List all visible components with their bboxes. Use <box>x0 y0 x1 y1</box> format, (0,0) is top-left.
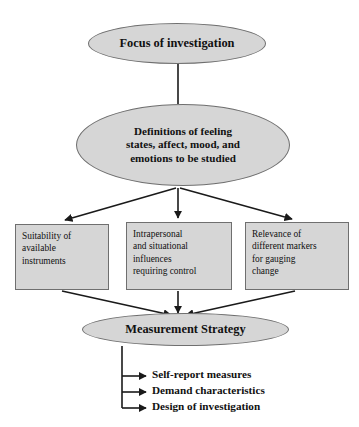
node-relevance-line-4: change <box>252 266 279 276</box>
node-relevance-of-different-markers[interactable]: Relevance of different markers for gaugi… <box>245 222 349 290</box>
node-relevance-line-1: Relevance of <box>252 229 301 239</box>
flowchart-diagram: Focus of investigation Definitions of fe… <box>0 0 359 427</box>
connector-suitability-to-strategy <box>62 291 171 315</box>
node-suitability-line-2: available <box>22 243 56 253</box>
node-focus-of-investigation[interactable]: Focus of investigation <box>88 23 266 64</box>
outcome-label: Self-report measures <box>152 369 251 380</box>
node-intrapersonal-line-4: requiring control <box>133 266 196 276</box>
node-definitions-line-2: states, affect, mood, and <box>126 138 240 150</box>
node-definitions[interactable]: Definitions of feeling states, affect, m… <box>76 104 290 186</box>
node-intrapersonal-and-situational-influences[interactable]: Intrapersonal and situational influences… <box>126 222 232 290</box>
connector-lines-layer <box>0 0 359 427</box>
connector-definitions-to-relevance <box>180 188 292 219</box>
node-definitions-line-3: emotions to be studied <box>130 152 236 164</box>
node-strategy-label: Measurement Strategy <box>125 322 246 337</box>
connector-relevance-to-strategy <box>186 291 295 315</box>
node-intrapersonal-line-1: Intrapersonal <box>133 229 182 239</box>
outcome-label: Design of investigation <box>152 401 260 412</box>
node-definitions-text: Definitions of feeling states, affect, m… <box>126 125 240 164</box>
node-suitability-line-1: Suitability of <box>22 231 71 241</box>
node-focus-label: Focus of investigation <box>120 36 235 51</box>
outcome-label: Demand characteristics <box>152 385 265 396</box>
node-suitability-of-available-instruments[interactable]: Suitability of available instruments <box>15 224 109 290</box>
outcome-item[interactable]: Design of investigation <box>152 399 352 415</box>
node-definitions-line-1: Definitions of feeling <box>134 125 232 137</box>
node-suitability-line-3: instruments <box>22 256 66 266</box>
node-intrapersonal-line-3: influences <box>133 254 172 264</box>
node-intrapersonal-line-2: and situational <box>133 241 188 251</box>
connector-definitions-to-suitability <box>65 188 176 220</box>
outcome-item[interactable]: Self-report measures <box>152 367 352 383</box>
outcome-list: Self-report measures Demand characterist… <box>152 367 352 415</box>
outcome-item[interactable]: Demand characteristics <box>152 383 352 399</box>
node-measurement-strategy[interactable]: Measurement Strategy <box>82 313 289 346</box>
node-relevance-line-2: different markers <box>252 241 317 251</box>
node-relevance-line-3: for gauging <box>252 254 295 264</box>
